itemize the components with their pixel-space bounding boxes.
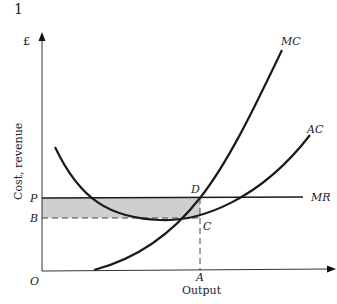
y-axis-unit-label: £ <box>23 35 30 48</box>
label-ac: AC <box>306 123 324 136</box>
label-a: A <box>195 271 204 284</box>
label-mr: MR <box>310 191 331 204</box>
label-b: B <box>29 212 38 225</box>
y-axis-arrow-icon <box>39 32 46 41</box>
label-mc: MC <box>280 35 301 48</box>
cost-revenue-diagram: £ Cost, revenue P B O D C A Output MC AC… <box>0 0 337 304</box>
label-p: P <box>29 192 38 205</box>
label-d: D <box>190 183 200 196</box>
label-origin: O <box>30 275 39 288</box>
x-axis-title: Output <box>182 284 222 297</box>
profit-area <box>42 198 200 218</box>
mc-curve <box>94 50 282 270</box>
x-axis-arrow-icon <box>327 266 336 273</box>
x-axis <box>42 269 327 271</box>
label-c: C <box>203 220 212 233</box>
mr-curve <box>42 197 303 198</box>
y-axis-title: Cost, revenue <box>12 123 25 200</box>
